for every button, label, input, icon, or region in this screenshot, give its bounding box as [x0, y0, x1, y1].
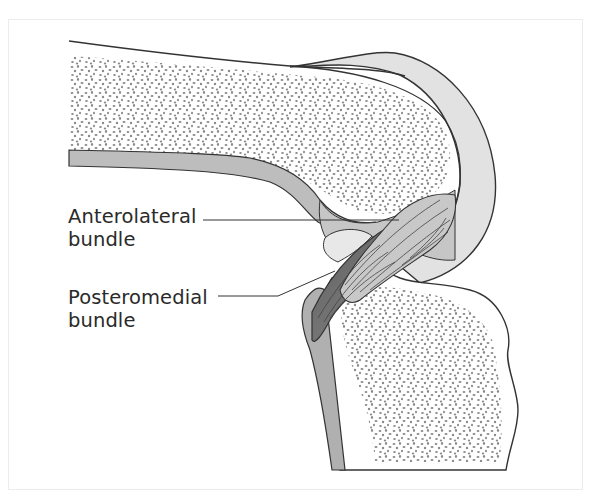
label-line: bundle: [68, 228, 197, 251]
knee-illustration: [0, 0, 599, 504]
label-posteromedial-bundle: Posteromedial bundle: [68, 286, 208, 332]
label-line: Posteromedial: [68, 286, 208, 309]
femur-cancellous-bone: [70, 56, 450, 214]
label-anterolateral-bundle: Anterolateral bundle: [68, 205, 197, 251]
label-line: bundle: [68, 309, 208, 332]
label-line: Anterolateral: [68, 205, 197, 228]
